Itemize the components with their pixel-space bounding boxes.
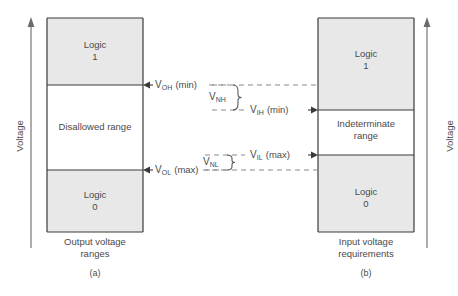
right-column-caption: Input voltage requirements — [338, 236, 393, 260]
voh-threshold-label: VOH(min) — [155, 79, 197, 92]
vnh-symbol: V — [209, 91, 216, 102]
vil-symbol: V — [250, 149, 257, 160]
vnl-brace — [227, 155, 235, 170]
right-logic-high-label: Logic 1 — [355, 48, 378, 72]
right-voltage-axis-arrow — [424, 17, 431, 248]
threshold-pointers — [143, 82, 318, 174]
vnl-subscript: NL — [210, 161, 219, 168]
voh-pointer-arrow — [143, 82, 150, 89]
left-column-caption: Output voltage ranges — [64, 236, 126, 260]
right-logic-low-label: Logic 0 — [355, 186, 378, 210]
vol-threshold-label: VOL(max) — [155, 164, 199, 177]
vol-symbol: V — [155, 164, 162, 175]
voh-qualifier: (min) — [175, 79, 197, 90]
vih-pointer-arrow — [311, 107, 318, 114]
vnl-symbol: V — [203, 156, 210, 167]
vih-threshold-label: VIH(min) — [250, 104, 289, 117]
logic-voltage-diagram: Voltage Voltage Logic 1 Disallowed range… — [0, 0, 458, 296]
vnh-subscript: NH — [216, 96, 226, 103]
left-column-sublabel: (a) — [90, 268, 101, 279]
vil-threshold-label: VIL(max) — [250, 149, 290, 162]
left-voltage-axis-arrow — [28, 17, 35, 248]
vnh-brace — [233, 85, 242, 110]
vil-subscript: IL — [257, 154, 263, 161]
left-logic-high-label: Logic 1 — [84, 39, 107, 63]
vih-symbol: V — [250, 104, 257, 115]
vih-qualifier: (min) — [267, 104, 289, 115]
vol-pointer-arrow — [143, 167, 150, 174]
right-voltage-axis-label: Voltage — [444, 120, 455, 152]
right-indeterminate-label: Indeterminate range — [337, 118, 395, 142]
voh-subscript: OH — [162, 84, 173, 91]
right-column-sublabel: (b) — [361, 268, 372, 279]
vol-subscript: OL — [162, 169, 172, 176]
voh-symbol: V — [155, 79, 162, 90]
left-voltage-axis-label: Voltage — [14, 120, 25, 152]
left-logic-low-label: Logic 0 — [84, 189, 107, 213]
vil-pointer-arrow — [311, 152, 318, 159]
vil-qualifier: (max) — [266, 149, 290, 160]
left-disallowed-label: Disallowed range — [59, 121, 132, 133]
vih-subscript: IH — [257, 109, 264, 116]
vnh-margin-label: VNH — [209, 91, 226, 104]
vnl-margin-label: VNL — [203, 156, 219, 169]
vol-qualifier: (max) — [174, 164, 198, 175]
